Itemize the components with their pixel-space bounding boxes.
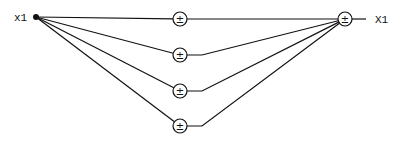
edges — [36, 17, 366, 126]
edge-in-4 — [36, 17, 174, 122]
sum-node-3: ± — [173, 84, 187, 98]
input-label: x1 — [14, 12, 28, 24]
plus-minus-icon: ± — [176, 86, 184, 97]
plus-minus-icon: ± — [176, 50, 184, 61]
edge-in-2 — [36, 17, 173, 53]
output-label: X1 — [375, 14, 389, 26]
nodes: ±±±±± — [33, 12, 352, 133]
edge-in-3 — [36, 17, 174, 88]
plus-minus-icon: ± — [176, 14, 184, 25]
plus-minus-icon: ± — [176, 121, 184, 132]
sum-node-2: ± — [173, 48, 187, 62]
sum-node-1: ± — [173, 12, 187, 26]
plus-minus-icon: ± — [341, 14, 349, 25]
edge-out-2 — [187, 21, 338, 55]
signal-flow-diagram: ±±±±± x1 X1 — [0, 0, 401, 143]
sum-node-4: ± — [173, 119, 187, 133]
output-sum-node: ± — [338, 12, 352, 26]
edge-out-4 — [187, 23, 339, 126]
input-source-dot — [33, 14, 39, 20]
edge-in-1 — [36, 17, 173, 19]
